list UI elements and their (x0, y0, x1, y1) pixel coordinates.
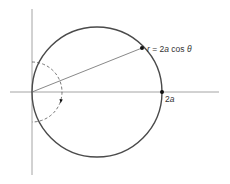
radius-line (32, 48, 142, 92)
curve-point (140, 46, 144, 50)
curve-equation-label: r = 2a cos θ (147, 44, 192, 54)
point-2a-label: 2a (165, 94, 175, 104)
label-cos: cos (169, 44, 187, 54)
point-2a (160, 90, 164, 94)
label-equals: = 2 (150, 44, 165, 54)
polar-circle-diagram: r = 2a cos θ 2a (0, 0, 230, 184)
label-a-var: a (170, 94, 175, 104)
label-theta: θ (187, 44, 192, 54)
